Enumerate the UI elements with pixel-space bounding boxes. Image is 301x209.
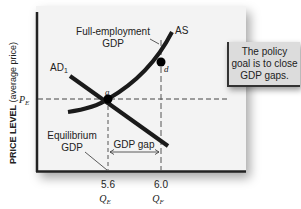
equilibrium-label-1: Equilibrium xyxy=(47,130,96,141)
full-employment-label-1: Full-employment xyxy=(76,26,150,37)
full-employment-leader xyxy=(150,39,159,44)
equilibrium-leader xyxy=(85,152,107,170)
qe-label: QE xyxy=(99,193,111,206)
policy-callout: The policy goal is to close GDP gaps. xyxy=(227,42,300,87)
equilibrium-label-2: GDP xyxy=(61,142,83,153)
x-tick-6-0: 6.0 xyxy=(154,179,168,190)
as-label: AS xyxy=(175,25,189,36)
full-employment-label-2: GDP xyxy=(102,38,124,49)
ad-label: AD1 xyxy=(50,62,68,74)
pe-tick-label: PE xyxy=(18,94,30,107)
chart-svg: Full-employment GDP AS AD1 a d PE Equili… xyxy=(0,0,301,209)
point-d-label: d xyxy=(164,64,169,74)
point-a-label: a xyxy=(105,87,110,97)
x-tick-5-6: 5.6 xyxy=(101,179,115,190)
gdp-gap-label: GDP gap xyxy=(114,139,155,150)
qf-label: QF xyxy=(152,193,164,206)
